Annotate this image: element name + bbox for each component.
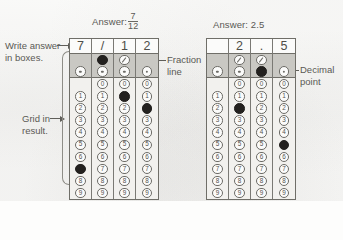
decimal-point-bubble-row[interactable]: [70, 66, 91, 78]
grid-column[interactable]: /0123456789: [92, 39, 114, 199]
digit-bubble-row[interactable]: 4: [273, 127, 295, 139]
digit-bubble-row[interactable]: 9: [92, 187, 113, 199]
digit-bubble-row[interactable]: 0: [251, 78, 272, 90]
digit-bubble[interactable]: 3: [256, 115, 266, 125]
decimal-point-bubble[interactable]: [75, 66, 85, 76]
digit-bubble-row[interactable]: 6: [136, 151, 158, 163]
digit-bubble-row[interactable]: 1: [114, 90, 135, 102]
digit-bubble[interactable]: 6: [119, 152, 129, 162]
digit-bubble-row[interactable]: 8: [114, 175, 135, 187]
digit-bubble-row[interactable]: 0: [273, 78, 295, 90]
written-answer-cell[interactable]: 2: [136, 39, 158, 54]
digit-bubble[interactable]: 2: [212, 103, 222, 113]
digit-bubble-row[interactable]: 1: [136, 90, 158, 102]
digit-bubble[interactable]: 8: [279, 176, 289, 186]
grid-column[interactable]: 7123456789: [70, 39, 92, 199]
digit-bubble-row[interactable]: 5: [92, 139, 113, 151]
digit-bubble[interactable]: 8: [119, 176, 129, 186]
grid-column[interactable]: 20123456789: [229, 39, 251, 199]
digit-bubble-row[interactable]: 8: [92, 175, 113, 187]
decimal-point-bubble-filled[interactable]: [256, 66, 266, 76]
digit-bubble[interactable]: 4: [97, 127, 107, 137]
decimal-point-bubble-row[interactable]: [114, 66, 135, 78]
written-answer-cell[interactable]: 1: [114, 39, 135, 54]
digit-bubble[interactable]: 8: [234, 176, 244, 186]
digit-bubble[interactable]: 6: [212, 152, 222, 162]
fraction-line-bubble-row[interactable]: [70, 54, 91, 66]
decimal-point-bubble-row[interactable]: [273, 66, 295, 78]
digit-bubble[interactable]: 2: [97, 103, 107, 113]
decimal-point-bubble[interactable]: [279, 66, 289, 76]
digit-bubble-row[interactable]: 2: [273, 102, 295, 114]
digit-bubble[interactable]: 9: [142, 188, 152, 198]
written-answer-cell[interactable]: 7: [70, 39, 91, 54]
grid-column[interactable]: 50123456789: [273, 39, 295, 199]
digit-bubble-row[interactable]: 4: [229, 127, 250, 139]
decimal-point-bubble-row[interactable]: [136, 66, 158, 78]
digit-bubble[interactable]: 2: [119, 103, 129, 113]
decimal-point-bubble[interactable]: [142, 66, 152, 76]
digit-bubble-row[interactable]: 1: [70, 90, 91, 102]
digit-bubble[interactable]: 6: [234, 152, 244, 162]
digit-bubble[interactable]: 8: [97, 176, 107, 186]
digit-bubble-row[interactable]: 7: [92, 163, 113, 175]
digit-bubble-row[interactable]: 5: [136, 139, 158, 151]
fraction-line-bubble-filled[interactable]: [97, 55, 107, 65]
digit-bubble-row[interactable]: 3: [273, 114, 295, 126]
digit-bubble-row[interactable]: 2: [207, 102, 228, 114]
digit-bubble[interactable]: 7: [234, 164, 244, 174]
digit-bubble[interactable]: 4: [279, 127, 289, 137]
digit-bubble[interactable]: 2: [279, 103, 289, 113]
digit-bubble[interactable]: 5: [234, 140, 244, 150]
digit-bubble-row[interactable]: 5: [114, 139, 135, 151]
digit-bubble-row[interactable]: 4: [251, 127, 272, 139]
digit-bubble-row[interactable]: 2: [136, 102, 158, 114]
fraction-line-bubble-row[interactable]: [229, 54, 250, 66]
grid-column[interactable]: .0123456789: [251, 39, 273, 199]
digit-bubble-row[interactable]: 3: [229, 114, 250, 126]
digit-bubble-row[interactable]: 5: [229, 139, 250, 151]
digit-bubble-row[interactable]: 1: [251, 90, 272, 102]
digit-bubble-row[interactable]: 2: [70, 102, 91, 114]
digit-bubble-row[interactable]: 0: [92, 78, 113, 90]
digit-bubble[interactable]: 6: [97, 152, 107, 162]
digit-bubble-row[interactable]: 8: [229, 175, 250, 187]
digit-bubble-row[interactable]: 7: [136, 163, 158, 175]
digit-bubble-row[interactable]: 6: [207, 151, 228, 163]
written-answer-cell[interactable]: 2: [229, 39, 250, 54]
answer-grid-fraction[interactable]: 7123456789/01234567891012345678920123456…: [69, 38, 159, 200]
digit-bubble-row[interactable]: 7: [70, 163, 91, 175]
fraction-line-bubble[interactable]: [256, 55, 266, 65]
fraction-line-bubble-row[interactable]: [92, 54, 113, 66]
digit-bubble-row[interactable]: 0: [229, 78, 250, 90]
digit-bubble-row[interactable]: 8: [136, 175, 158, 187]
digit-bubble[interactable]: 9: [279, 188, 289, 198]
digit-bubble[interactable]: 9: [119, 188, 129, 198]
digit-bubble-row[interactable]: 9: [70, 187, 91, 199]
digit-bubble[interactable]: 3: [119, 115, 129, 125]
digit-bubble-row[interactable]: 5: [207, 139, 228, 151]
digit-bubble-filled[interactable]: 1: [119, 91, 129, 101]
digit-bubble[interactable]: 3: [234, 115, 244, 125]
decimal-point-bubble[interactable]: [97, 66, 107, 76]
digit-bubble[interactable]: 3: [142, 115, 152, 125]
digit-bubble-row[interactable]: 7: [251, 163, 272, 175]
digit-bubble-filled[interactable]: 2: [142, 103, 152, 113]
digit-bubble[interactable]: 3: [97, 115, 107, 125]
digit-bubble-row[interactable]: 3: [92, 114, 113, 126]
decimal-point-bubble-row[interactable]: [229, 66, 250, 78]
digit-bubble[interactable]: 7: [142, 164, 152, 174]
digit-bubble-filled[interactable]: 7: [75, 164, 85, 174]
digit-bubble-row[interactable]: 1: [92, 90, 113, 102]
digit-bubble-row[interactable]: 4: [114, 127, 135, 139]
written-answer-cell[interactable]: [207, 39, 228, 54]
digit-bubble[interactable]: 1: [212, 91, 222, 101]
digit-bubble-row[interactable]: 6: [92, 151, 113, 163]
digit-bubble[interactable]: 3: [75, 115, 85, 125]
digit-bubble[interactable]: 7: [97, 164, 107, 174]
digit-bubble-row[interactable]: 3: [207, 114, 228, 126]
digit-bubble-row[interactable]: 9: [229, 187, 250, 199]
digit-bubble-row[interactable]: 4: [136, 127, 158, 139]
digit-bubble[interactable]: 3: [279, 115, 289, 125]
digit-bubble[interactable]: 0: [256, 79, 266, 89]
